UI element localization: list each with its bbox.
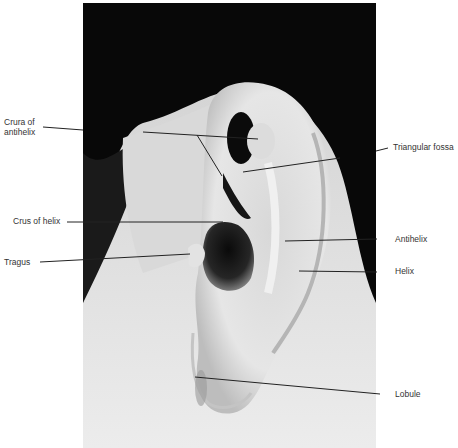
leader-crura-left: [43, 127, 83, 130]
label-tragus: Tragus: [4, 257, 30, 267]
label-helix: Helix: [395, 266, 414, 276]
label-crus-of-helix: Crus of helix: [13, 216, 60, 226]
label-crura-line2: antihelix: [4, 127, 35, 137]
label-crura-of-antihelix: Crura of antihelix: [4, 117, 35, 137]
label-antihelix: Antihelix: [395, 234, 427, 244]
ear-photograph: [83, 3, 376, 448]
label-triangular-fossa: Triangular fossa: [393, 142, 454, 152]
ear-photo-illustration: [83, 3, 376, 448]
leader-triangular-fossa-ext: [376, 148, 388, 151]
label-lobule: Lobule: [395, 389, 421, 399]
label-crura-line1: Crura of: [4, 117, 35, 127]
